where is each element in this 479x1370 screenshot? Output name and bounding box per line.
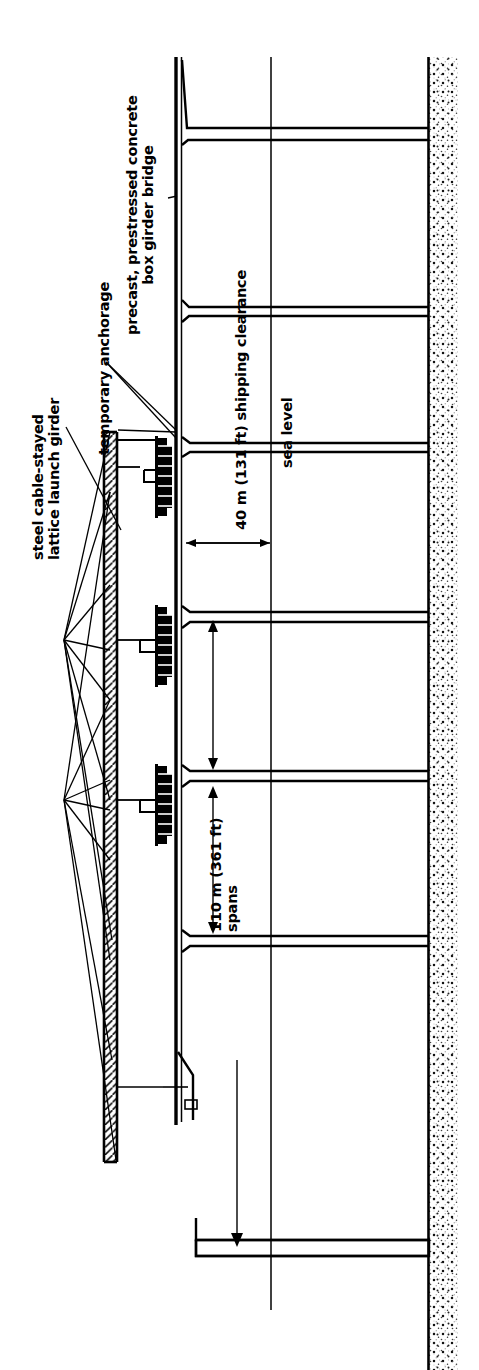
pier xyxy=(182,606,429,628)
pier xyxy=(196,1218,429,1256)
pier xyxy=(182,765,429,787)
temporary-anchorage-leader xyxy=(106,362,176,438)
dimension-shipping-clearance xyxy=(186,539,270,547)
pier xyxy=(182,437,429,457)
dimension-span-upper xyxy=(208,620,218,770)
label-sea-level: sea level xyxy=(279,397,295,468)
pier xyxy=(182,300,429,322)
label-box-girder-bridge: precast, prestressed concrete box girder… xyxy=(124,95,156,335)
label-shipping-clearance: 40 m (131 ft) shipping clearance xyxy=(233,270,249,530)
label-temporary-anchorage: temporary anchorage xyxy=(96,282,112,455)
label-bridge-line2: box girder bridge xyxy=(140,95,156,335)
label-launch-girder: steel cable-stayed lattice launch girder xyxy=(30,398,62,560)
seabed xyxy=(428,57,458,1370)
pier-head-segment xyxy=(144,436,172,518)
bridge-deck xyxy=(168,57,182,1125)
label-span-line1: 110 m (361 ft) xyxy=(208,818,224,932)
figure-canvas: steel cable-stayed lattice launch girder… xyxy=(0,0,479,1370)
label-bridge-line1: precast, prestressed concrete xyxy=(124,95,140,335)
dimension-span-next xyxy=(231,1060,243,1247)
pier xyxy=(182,60,429,145)
launch-girder-truss xyxy=(104,432,163,1162)
label-span-line2: spans xyxy=(224,818,240,932)
pier xyxy=(163,1052,197,1120)
bridge-erection-diagram xyxy=(0,0,479,1370)
label-launch-girder-line1: steel cable-stayed xyxy=(30,398,46,560)
label-launch-girder-line2: lattice launch girder xyxy=(46,398,62,560)
pier-head-segment xyxy=(140,764,172,846)
pier-head-segment xyxy=(140,605,172,687)
pier xyxy=(182,930,429,952)
label-span-dimension: 110 m (361 ft) spans xyxy=(208,818,240,932)
